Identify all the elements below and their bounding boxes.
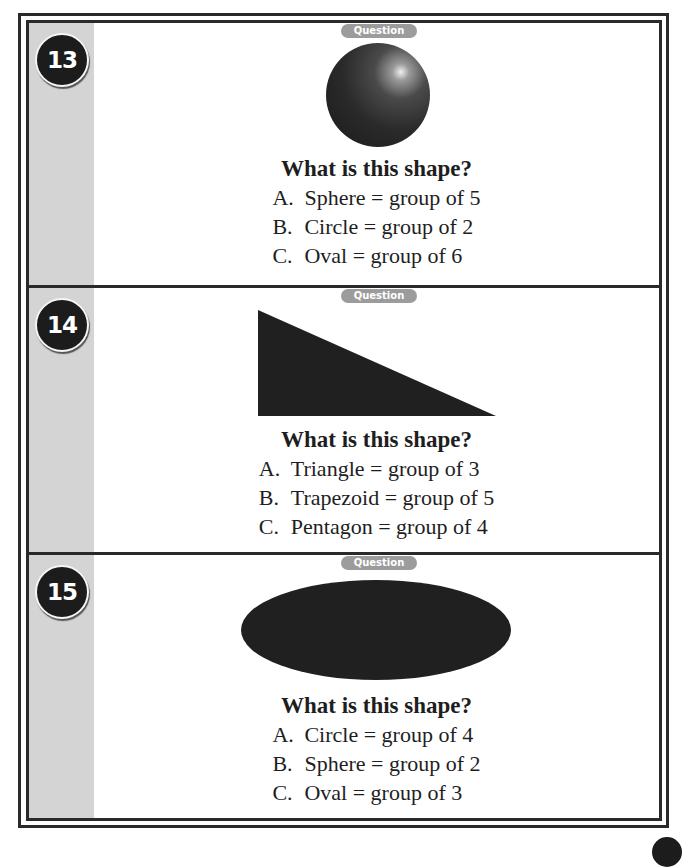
question-14: 14 Question What is this shape? A.Triang… (29, 288, 659, 552)
answer-options: A.Circle = group of 4 B.Sphere = group o… (272, 720, 480, 807)
answer-option-b: B.Sphere = group of 2 (272, 749, 480, 778)
question-number-badge: 15 (35, 565, 89, 619)
question-13: 13 Question What is this shape? A.Sphere… (29, 23, 659, 285)
answer-option-b: B.Circle = group of 2 (272, 212, 480, 241)
answer-option-a: A.Circle = group of 4 (272, 720, 480, 749)
right-triangle-shape-image (258, 310, 496, 416)
page-number-badge (652, 837, 682, 867)
option-text: Oval = group of 3 (304, 780, 462, 805)
question-number-badge: 13 (35, 33, 89, 87)
question-prompt: What is this shape? (94, 691, 659, 720)
option-letter: B. (259, 483, 291, 512)
option-letter: A. (259, 454, 291, 483)
option-letter: C. (272, 778, 304, 807)
option-text: Triangle = group of 3 (291, 456, 480, 481)
option-letter: C. (272, 241, 304, 270)
question-label-pill: Question (341, 289, 417, 303)
question-text-block: What is this shape? A.Triangle = group o… (94, 425, 659, 541)
answer-option-c: C.Oval = group of 6 (272, 241, 480, 270)
answer-options: A.Triangle = group of 3 B.Trapezoid = gr… (259, 454, 494, 541)
question-text-block: What is this shape? A.Sphere = group of … (94, 154, 659, 270)
option-text: Trapezoid = group of 5 (291, 485, 494, 510)
question-label-pill: Question (341, 556, 417, 570)
answer-option-c: C.Pentagon = group of 4 (259, 512, 494, 541)
option-text: Pentagon = group of 4 (291, 514, 488, 539)
question-prompt: What is this shape? (94, 154, 659, 183)
option-text: Sphere = group of 2 (304, 751, 480, 776)
option-text: Circle = group of 4 (304, 722, 473, 747)
option-letter: B. (272, 749, 304, 778)
option-text: Oval = group of 6 (304, 243, 462, 268)
answer-option-b: B.Trapezoid = group of 5 (259, 483, 494, 512)
question-text-block: What is this shape? A.Circle = group of … (94, 691, 659, 807)
option-letter: B. (272, 212, 304, 241)
answer-options: A.Sphere = group of 5 B.Circle = group o… (272, 183, 480, 270)
question-number-badge: 14 (35, 298, 89, 352)
option-letter: A. (272, 183, 304, 212)
sphere-shape-image (326, 43, 430, 147)
question-prompt: What is this shape? (94, 425, 659, 454)
question-card-frame: 13 Question What is this shape? A.Sphere… (26, 20, 662, 821)
option-text: Circle = group of 2 (304, 214, 473, 239)
option-letter: A. (272, 720, 304, 749)
option-letter: C. (259, 512, 291, 541)
answer-option-c: C.Oval = group of 3 (272, 778, 480, 807)
answer-option-a: A.Sphere = group of 5 (272, 183, 480, 212)
question-label-pill: Question (341, 24, 417, 38)
question-15: 15 Question What is this shape? A.Circle… (29, 555, 659, 818)
oval-shape-image (241, 580, 511, 680)
option-text: Sphere = group of 5 (304, 185, 480, 210)
answer-option-a: A.Triangle = group of 3 (259, 454, 494, 483)
